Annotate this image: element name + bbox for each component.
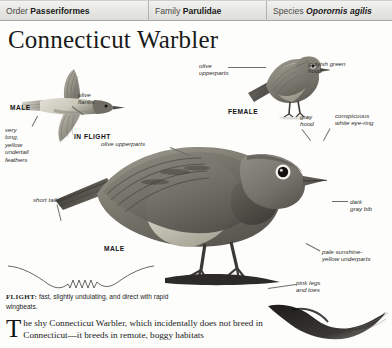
taxonomy-order-value: Passeriformes bbox=[30, 6, 89, 16]
male-label-underparts: pale sunshine- yellow underparts bbox=[322, 248, 371, 263]
body-paragraph: he shy Connecticut Warbler, which incide… bbox=[6, 318, 266, 341]
taxonomy-species: Species Oporornis agilis bbox=[266, 1, 392, 21]
female-caption: FEMALE bbox=[228, 108, 258, 115]
flight-note: FLIGHT: fast, slightly undulating, and d… bbox=[6, 292, 201, 311]
male-flight-illustration bbox=[18, 66, 128, 144]
taxonomy-header: Order Passeriformes Family Parulidae Spe… bbox=[0, 0, 392, 21]
flight-pattern-diagram bbox=[6, 262, 156, 292]
female-label-hood: grayish green hood bbox=[308, 60, 346, 75]
male-perched-caption: MALE bbox=[104, 245, 125, 252]
drop-cap: T bbox=[6, 318, 23, 339]
taxonomy-species-value: Oporornis agilis bbox=[306, 6, 372, 16]
taxonomy-order: Order Passeriformes bbox=[0, 1, 148, 21]
taxonomy-species-key: Species bbox=[273, 6, 304, 16]
page-title: Connecticut Warbler bbox=[8, 25, 218, 55]
female-label-upperparts: olive upperparts bbox=[199, 62, 229, 77]
taxonomy-order-key: Order bbox=[6, 6, 28, 16]
field-guide-page: Order Passeriformes Family Parulidae Spe… bbox=[0, 0, 392, 348]
flying-silhouette-illustration bbox=[262, 300, 392, 348]
male-label-tail: short tail bbox=[33, 196, 56, 203]
flight-label-undertail: very long, yellow undertail feathers bbox=[5, 126, 29, 163]
flight-label-flanks: olive flanks bbox=[78, 91, 94, 106]
male-label-hood: gray hood bbox=[300, 113, 314, 128]
flight-note-label: FLIGHT: bbox=[6, 293, 37, 301]
article-body: T he shy Connecticut Warbler, which inci… bbox=[6, 318, 266, 341]
male-flight-caption: MALE bbox=[10, 104, 31, 111]
male-bib-leader bbox=[332, 201, 348, 202]
taxonomy-family-value: Parulidae bbox=[183, 6, 222, 16]
taxonomy-family: Family Parulidae bbox=[148, 1, 266, 21]
male-label-bib: dark gray bib bbox=[350, 198, 372, 213]
male-label-upperparts: olive upperparts bbox=[101, 140, 145, 147]
taxonomy-family-key: Family bbox=[155, 6, 180, 16]
female-upperparts-leader bbox=[228, 67, 266, 68]
male-label-eyering: conspicuous white eye-ring bbox=[335, 112, 374, 127]
male-label-legs: pink legs and toes bbox=[296, 279, 320, 294]
